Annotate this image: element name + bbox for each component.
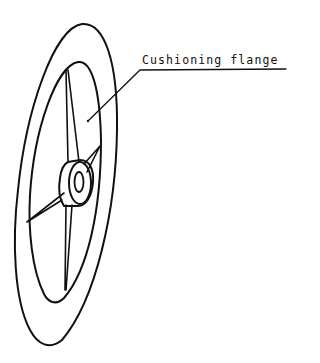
spoke-bottom [65, 205, 72, 290]
hub-face [69, 162, 91, 204]
spoke-left [27, 193, 64, 222]
leader-dot [87, 120, 89, 122]
spoke-top [66, 70, 79, 162]
cushioning-flange-label: Cushioning flange [142, 52, 278, 67]
hub-bore [75, 172, 84, 192]
